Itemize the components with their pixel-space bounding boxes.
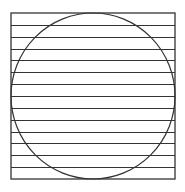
circle-in-square-diagram [0, 0, 185, 192]
horizontal-lines [11, 26, 175, 168]
